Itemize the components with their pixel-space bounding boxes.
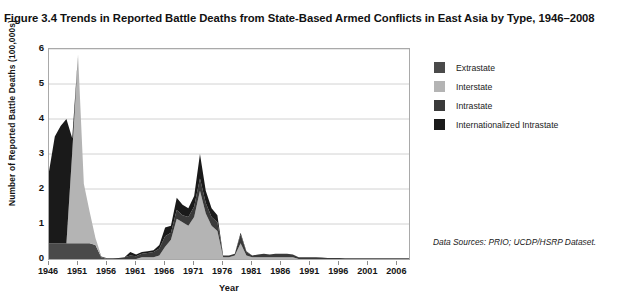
legend-item-label: Intrastate bbox=[456, 101, 492, 111]
y-tick-label: 1 bbox=[30, 218, 44, 228]
legend-item-label: Internationalized Intrastate bbox=[456, 120, 558, 130]
y-tick-label: 5 bbox=[30, 78, 44, 88]
x-tick-mark bbox=[222, 261, 223, 265]
legend-swatch-icon bbox=[433, 99, 446, 112]
chart-container: Number of Reported Battle Deaths (100,00… bbox=[0, 40, 623, 300]
x-tick-mark bbox=[106, 261, 107, 265]
x-axis-ticks: 1946195119561961196619711976198119861991… bbox=[48, 261, 410, 283]
x-tick-mark bbox=[193, 261, 194, 265]
x-tick-mark bbox=[280, 261, 281, 265]
x-tick-mark bbox=[48, 261, 49, 265]
y-tick-label: 0 bbox=[30, 253, 44, 263]
y-tick-label: 4 bbox=[30, 113, 44, 123]
y-tick-label: 6 bbox=[30, 43, 44, 53]
chart-legend: ExtrastateInterstateIntrastateInternatio… bbox=[433, 58, 618, 134]
legend-item: Internationalized Intrastate bbox=[433, 115, 618, 134]
legend-swatch-icon bbox=[433, 80, 446, 93]
area-series-internationalized-intrastate bbox=[49, 54, 409, 258]
source-note: Data Sources: PRIO; UCDP/HSRP Dataset. bbox=[433, 237, 596, 247]
x-tick-mark bbox=[367, 261, 368, 265]
x-tick-label: 2006 bbox=[378, 266, 414, 276]
legend-item-label: Extrastate bbox=[456, 63, 495, 73]
x-tick-mark bbox=[396, 261, 397, 265]
x-tick-mark bbox=[309, 261, 310, 265]
x-axis-title: Year bbox=[48, 283, 410, 293]
legend-item: Intrastate bbox=[433, 96, 618, 115]
x-tick-mark bbox=[164, 261, 165, 265]
legend-item: Extrastate bbox=[433, 58, 618, 77]
legend-item-label: Interstate bbox=[456, 82, 492, 92]
y-axis-ticks: 0123456 bbox=[26, 48, 44, 260]
y-axis-title: Number of Reported Battle Deaths (100,00… bbox=[7, 13, 17, 213]
y-tick-label: 2 bbox=[30, 183, 44, 193]
plot-area bbox=[48, 48, 410, 260]
x-tick-mark bbox=[251, 261, 252, 265]
area-series-intrastate bbox=[49, 54, 409, 259]
legend-swatch-icon bbox=[433, 61, 446, 74]
y-tick-label: 3 bbox=[30, 148, 44, 158]
x-tick-mark bbox=[135, 261, 136, 265]
area-chart-svg bbox=[49, 49, 409, 259]
x-tick-mark bbox=[338, 261, 339, 265]
legend-item: Interstate bbox=[433, 77, 618, 96]
area-series-interstate bbox=[49, 54, 409, 259]
x-tick-mark bbox=[77, 261, 78, 265]
legend-swatch-icon bbox=[433, 118, 446, 131]
figure-caption: Figure 3.4 Trends in Reported Battle Dea… bbox=[4, 12, 619, 24]
